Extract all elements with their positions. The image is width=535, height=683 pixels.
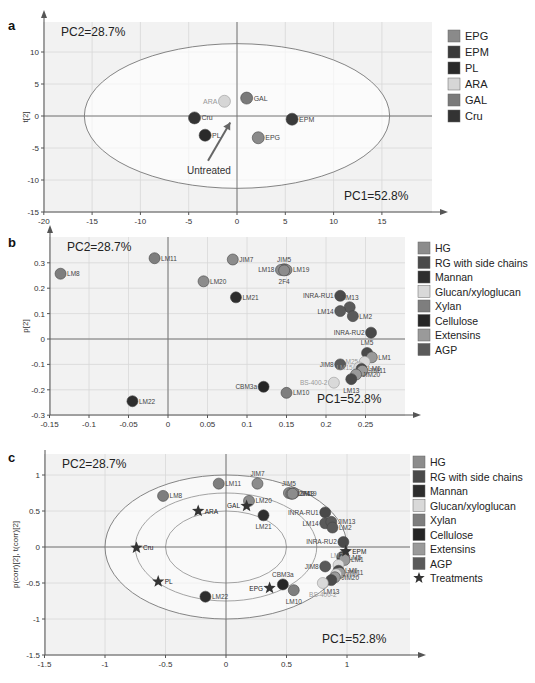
y-tick-label: 0.3 [34,259,46,268]
x-tick-label: 1 [345,660,350,669]
legend-item-cellulose[interactable]: Cellulose [418,315,478,327]
legend-item-cru[interactable]: Cru [448,110,483,122]
y-tick-label: 5 [35,80,40,89]
y-tick-label: -0.3 [31,411,45,420]
legend-item-ara[interactable]: ARA [448,78,488,90]
y-tick-label: 0 [35,112,40,121]
legend-item-glucan-xyloglucan[interactable]: Glucan/xyloglucan [413,500,516,512]
x-tick-label: 15 [377,217,386,225]
legend-swatch [413,514,425,526]
legend-label: Mannan [435,271,473,283]
legend-item-rg-with-side-chains[interactable]: RG with side chains [413,471,523,483]
legend-item-agp[interactable]: AGP [418,344,457,356]
legend-item-glucan-xyloglucan[interactable]: Glucan/xyloglucan [418,286,521,298]
legend-item-gal[interactable]: GAL [448,94,487,106]
legend-item-xylan[interactable]: Xylan [418,300,461,312]
x-tick-label: -1 [101,660,109,669]
point-label: INRA-RU1 [303,292,334,299]
y-tick-label: 0.1 [34,310,46,319]
point-label: PL [212,132,221,139]
y-axis-arrow-icon [47,225,53,233]
point-label: CBM3a [235,383,257,390]
legend-item-treatments[interactable]: Treatments [413,572,482,584]
point-label: Cru [143,544,154,551]
x-tick-label: 0.5 [281,660,293,669]
legend-swatch [413,471,425,483]
point-label: GAL [227,502,240,509]
x-tick-label: 0.05 [200,420,216,429]
x-tick-label: -15 [86,217,98,225]
y-tick-label: 0 [36,543,41,552]
legend-swatch [413,543,425,555]
legend-label: HG [430,456,446,468]
point-label: JIM13 [341,294,359,301]
legend-item-agp[interactable]: AGP [413,558,452,570]
legend-swatch [413,558,425,570]
x-axis-arrow-icon [418,652,426,658]
legend-item-cellulose[interactable]: Cellulose [413,529,473,541]
x-tick-label: 0.25 [358,420,374,429]
point-label: JIM20 [363,371,381,378]
pc2-label: PC2=28.7% [61,25,126,39]
point-label: LM10 [293,389,310,396]
legend-item-pl[interactable]: PL [448,62,478,74]
x-tick-label: -5 [185,217,193,225]
pc2-label: PC2=28.7% [67,240,132,254]
legend-item-epm[interactable]: EPM [448,46,489,58]
point-label: JIM20 [341,574,359,581]
point-label: GAL [254,95,268,102]
legend-item-mannan[interactable]: Mannan [418,271,473,283]
legend-swatch [448,30,460,42]
point-label: JIM5 [282,480,296,487]
point-label: CBM3a [272,571,294,578]
point-label: EPG [249,585,263,592]
point-label: LM11 [161,255,177,262]
point-label: LM22 [139,398,156,405]
point-label: LM13 [343,387,360,394]
point-label: LM14 [302,520,319,527]
point-label: JIM8 [305,563,319,570]
legend-swatch [418,329,430,341]
point-label: LM20 [210,278,227,285]
y-tick-label: 0.2 [34,284,46,293]
legend-swatch [413,500,425,512]
legend-item-hg[interactable]: HG [413,456,446,468]
x-tick-label: -0.15 [40,420,59,429]
legend-swatch [418,315,430,327]
legend-label: Glucan/xyloglucan [435,286,521,298]
point-label: INRA-RU2 [306,538,337,545]
legend-label: Xylan [430,514,456,526]
legend-label: RG with side chains [435,257,528,269]
legend-swatch [448,78,460,90]
legend-swatch [418,242,430,254]
legend-item-extensins[interactable]: Extensins [418,329,481,341]
legend-label: AGP [430,558,452,570]
x-tick-label: -0.5 [159,660,173,669]
panel-letter: a [8,18,16,33]
point-label: Cru [201,114,212,121]
legend-item-xylan[interactable]: Xylan [413,514,456,526]
legend-item-epg[interactable]: EPG [448,30,488,42]
loadings-plot-b: -0.15-0.1-0.0500.050.10.150.20.25-0.3-0.… [0,225,535,450]
legend-item-mannan[interactable]: Mannan [413,485,468,497]
x-tick-label: -0.05 [119,420,138,429]
x-tick-label: 0 [166,420,171,429]
y-axis-label: p(corr)[2], t(corr)[2] [11,521,20,588]
point-label: ARA [203,98,218,105]
legend-item-hg[interactable]: HG [418,242,451,254]
legend-swatch [413,456,425,468]
legend-item-extensins[interactable]: Extensins [413,543,476,555]
point-label: LM1 [351,556,364,563]
point-label: JIM7 [250,470,264,477]
point-label: 2F4 [279,278,291,285]
legend-label: Cellulose [435,315,478,327]
y-tick-label: -1 [33,615,41,624]
point-label: INRA-RU1 [288,509,319,516]
legend-label: EPM [465,46,489,58]
pc2-label: PC2=28.7% [62,457,127,471]
x-tick-label: 0.2 [320,420,332,429]
legend-label: Cru [465,110,483,122]
y-tick-label: -15 [27,208,39,217]
legend-label: RG with side chains [430,471,523,483]
legend-item-rg-with-side-chains[interactable]: RG with side chains [418,257,528,269]
